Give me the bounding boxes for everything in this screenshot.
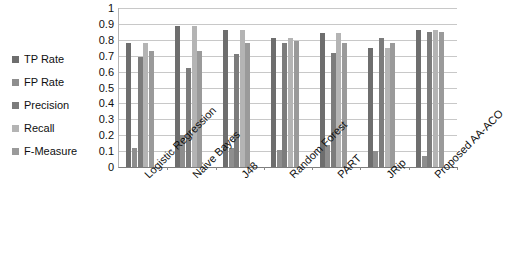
y-axis-tick-label: 0.7 — [99, 50, 114, 61]
y-axis-tick-label: 0 — [108, 162, 114, 173]
bar[interactable] — [331, 53, 336, 167]
bar[interactable] — [192, 26, 197, 168]
legend-swatch-icon — [12, 79, 19, 86]
y-axis-tick-label: 0.8 — [99, 34, 114, 45]
bar[interactable] — [427, 32, 432, 167]
bar[interactable] — [342, 43, 347, 167]
legend-swatch-icon — [12, 148, 19, 155]
bar[interactable] — [138, 57, 143, 167]
y-axis-tick-label: 0.9 — [99, 18, 114, 29]
chart-legend: TP RateFP RatePrecisionRecallF-Measure — [12, 48, 98, 163]
y-axis-tick-label: 0.1 — [99, 146, 114, 157]
y-axis: 10.90.80.70.60.50.40.30.20.10 — [88, 8, 114, 167]
y-axis-tick-label: 1 — [108, 3, 114, 14]
bar[interactable] — [132, 148, 137, 167]
bar[interactable] — [271, 38, 276, 167]
bar[interactable] — [433, 30, 438, 167]
y-axis-tick-label: 0.3 — [99, 114, 114, 125]
bar[interactable] — [240, 30, 245, 167]
y-axis-tick-label: 0.5 — [99, 82, 114, 93]
legend-label: Recall — [24, 123, 55, 134]
bar[interactable] — [149, 51, 154, 167]
bar[interactable] — [373, 151, 378, 167]
bar[interactable] — [126, 43, 131, 167]
legend-swatch-icon — [12, 102, 19, 109]
legend-swatch-icon — [12, 125, 19, 132]
bar[interactable] — [368, 48, 373, 167]
bar[interactable] — [416, 30, 421, 167]
legend-item[interactable]: TP Rate — [12, 48, 98, 70]
legend-item[interactable]: Recall — [12, 117, 98, 139]
legend-item[interactable]: F-Measure — [12, 140, 98, 162]
bar[interactable] — [197, 51, 202, 167]
bar[interactable] — [282, 43, 287, 167]
bar[interactable] — [379, 38, 384, 167]
bar[interactable] — [288, 38, 293, 167]
bar[interactable] — [294, 41, 299, 167]
bar[interactable] — [245, 43, 250, 167]
bar-group — [416, 8, 443, 167]
bar[interactable] — [234, 54, 239, 167]
bar-group — [126, 8, 153, 167]
bar[interactable] — [336, 33, 341, 167]
bar[interactable] — [422, 156, 427, 167]
legend-item[interactable]: Precision — [12, 94, 98, 116]
bar[interactable] — [229, 148, 234, 167]
y-axis-tick-label: 0.6 — [99, 66, 114, 77]
x-axis-category-labels: Logistic RegressionNaive BayesJ48Random … — [118, 170, 464, 267]
legend-label: F-Measure — [24, 146, 77, 157]
bar-group — [271, 8, 298, 167]
bar[interactable] — [143, 43, 148, 167]
y-axis-tick-label: 0.4 — [99, 98, 114, 109]
bar[interactable] — [277, 150, 282, 167]
legend-label: TP Rate — [24, 54, 64, 65]
bar[interactable] — [186, 68, 191, 167]
legend-swatch-icon — [12, 56, 19, 63]
y-axis-tick-label: 0.2 — [99, 130, 114, 141]
bar[interactable] — [439, 32, 444, 167]
legend-item[interactable]: FP Rate — [12, 71, 98, 93]
legend-label: Precision — [24, 100, 69, 111]
bar[interactable] — [390, 43, 395, 167]
legend-label: FP Rate — [24, 77, 64, 88]
bar[interactable] — [385, 48, 390, 167]
bar-group — [368, 8, 395, 167]
